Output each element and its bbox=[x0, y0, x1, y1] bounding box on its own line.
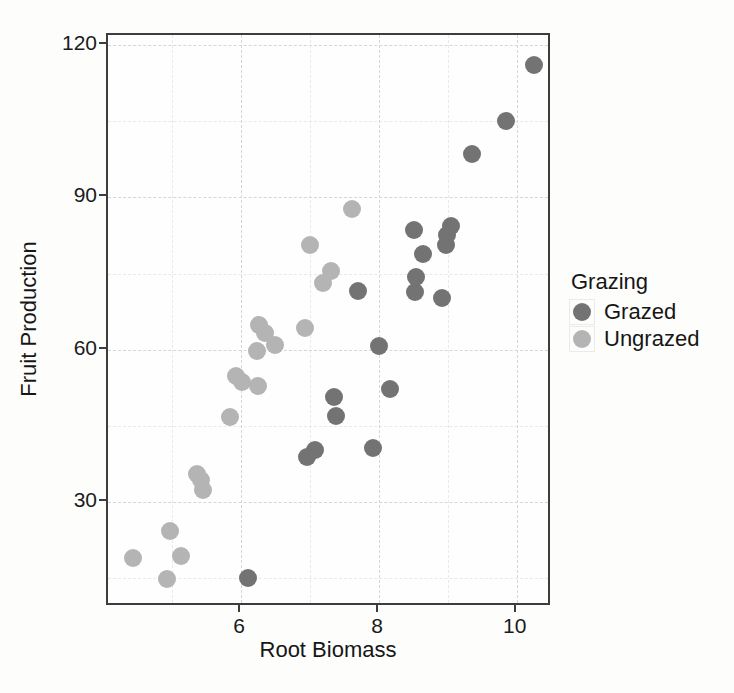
data-point-grazed bbox=[406, 283, 424, 301]
y-tick-label: 60 bbox=[37, 336, 97, 360]
gridline-minor bbox=[448, 35, 449, 603]
y-tick-label: 90 bbox=[37, 183, 97, 207]
data-point-ungrazed bbox=[194, 481, 212, 499]
x-axis-tick bbox=[514, 605, 516, 612]
data-point-grazed bbox=[463, 145, 481, 163]
gridline-major bbox=[108, 197, 548, 198]
data-point-ungrazed bbox=[249, 377, 267, 395]
y-axis-title: Fruit Production bbox=[16, 241, 42, 396]
data-point-ungrazed bbox=[172, 547, 190, 565]
x-tick-label: 8 bbox=[337, 614, 417, 638]
plot-panel bbox=[106, 33, 550, 605]
legend: Grazing GrazedUngrazed bbox=[569, 268, 699, 352]
gridline-major bbox=[379, 35, 380, 603]
legend-key bbox=[569, 299, 595, 325]
legend-key-dot-icon bbox=[573, 330, 591, 348]
x-tick-label: 6 bbox=[199, 614, 279, 638]
data-point-grazed bbox=[405, 221, 423, 239]
data-point-grazed bbox=[525, 56, 543, 74]
data-point-grazed bbox=[414, 245, 432, 263]
legend-label: Ungrazed bbox=[604, 326, 699, 352]
data-point-ungrazed bbox=[322, 262, 340, 280]
data-point-ungrazed bbox=[343, 200, 361, 218]
gridline-minor bbox=[172, 35, 173, 603]
y-tick-label: 30 bbox=[37, 488, 97, 512]
data-point-ungrazed bbox=[221, 408, 239, 426]
data-point-grazed bbox=[381, 380, 399, 398]
gridline-major bbox=[108, 45, 548, 46]
data-point-ungrazed bbox=[124, 549, 142, 567]
x-tick-label: 10 bbox=[475, 614, 555, 638]
data-point-grazed bbox=[407, 268, 425, 286]
x-axis-title: Root Biomass bbox=[106, 637, 550, 663]
legend-label: Grazed bbox=[604, 299, 676, 325]
legend-title: Grazing bbox=[571, 268, 699, 295]
gridline-minor bbox=[310, 35, 311, 603]
legend-key bbox=[569, 326, 595, 352]
data-point-grazed bbox=[239, 569, 257, 587]
x-axis-tick bbox=[238, 605, 240, 612]
data-point-grazed bbox=[433, 289, 451, 307]
y-axis-tick bbox=[99, 42, 106, 44]
data-point-grazed bbox=[370, 337, 388, 355]
data-point-ungrazed bbox=[301, 236, 319, 254]
data-point-ungrazed bbox=[266, 336, 284, 354]
data-point-grazed bbox=[497, 112, 515, 130]
legend-key-dot-icon bbox=[573, 303, 591, 321]
data-point-grazed bbox=[349, 282, 367, 300]
y-axis-tick bbox=[99, 499, 106, 501]
x-axis-tick bbox=[376, 605, 378, 612]
gridline-minor bbox=[108, 121, 548, 122]
data-point-grazed bbox=[327, 407, 345, 425]
legend-item-grazed: Grazed bbox=[569, 298, 699, 325]
y-axis-tick bbox=[99, 347, 106, 349]
y-axis-tick bbox=[99, 194, 106, 196]
data-point-grazed bbox=[306, 441, 324, 459]
data-point-ungrazed bbox=[161, 522, 179, 540]
data-point-grazed bbox=[325, 388, 343, 406]
data-point-ungrazed bbox=[233, 373, 251, 391]
legend-item-ungrazed: Ungrazed bbox=[569, 325, 699, 352]
data-point-ungrazed bbox=[296, 319, 314, 337]
data-point-grazed bbox=[364, 439, 382, 457]
gridline-major bbox=[517, 35, 518, 603]
data-point-grazed bbox=[442, 217, 460, 235]
gridline-minor bbox=[108, 426, 548, 427]
data-point-ungrazed bbox=[248, 342, 266, 360]
gridline-major bbox=[108, 350, 548, 351]
gridline-major bbox=[241, 35, 242, 603]
data-point-ungrazed bbox=[158, 570, 176, 588]
scatter-plot-figure: 6810306090120 Root Biomass Fruit Product… bbox=[0, 0, 734, 693]
gridline-major bbox=[108, 502, 548, 503]
y-tick-label: 120 bbox=[37, 31, 97, 55]
